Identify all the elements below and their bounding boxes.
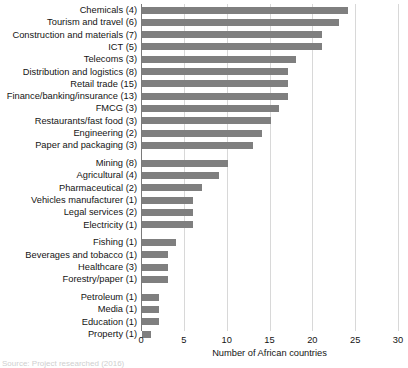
category-label: Legal services (2) [0, 206, 137, 218]
bar-row [141, 41, 398, 53]
category-label: Pharmaceutical (2) [0, 182, 137, 194]
bar [142, 209, 193, 216]
bar-row [141, 194, 398, 206]
plot-area [141, 4, 398, 331]
bar [142, 172, 219, 179]
bar [142, 7, 348, 14]
category-label: Engineering (2) [0, 127, 137, 139]
category-label: Telecoms (3) [0, 53, 137, 65]
x-tick-label-5: 5 [169, 334, 199, 346]
bar-row [141, 316, 398, 328]
bar [142, 239, 176, 246]
bar [142, 93, 288, 100]
bar [142, 117, 271, 124]
bar-row [141, 115, 398, 127]
category-label: Fishing (1) [0, 236, 137, 248]
bar [142, 80, 288, 87]
bar [142, 197, 193, 204]
category-label: Forestry/paper (1) [0, 273, 137, 285]
category-label: Retail trade (15) [0, 78, 137, 90]
gridline-30 [398, 4, 399, 331]
bar [142, 43, 322, 50]
bar [142, 184, 202, 191]
x-tick-label-0: 0 [126, 334, 156, 346]
bar [142, 306, 159, 313]
category-label: Agricultural (4) [0, 169, 137, 181]
bar-chart: Chemicals (4)Tourism and travel (6)Const… [0, 0, 408, 368]
bar-row [141, 66, 398, 78]
category-label: FMCG (3) [0, 102, 137, 114]
bar [142, 251, 168, 258]
x-axis-title: Number of African countries [141, 348, 398, 358]
bar [142, 68, 288, 75]
bar-row [141, 127, 398, 139]
bar-row [141, 53, 398, 65]
category-label-column: Chemicals (4)Tourism and travel (6)Const… [0, 4, 137, 331]
bar-row [141, 4, 398, 16]
bar [142, 105, 279, 112]
bar [142, 142, 253, 149]
bar-row [141, 157, 398, 169]
bar-row [141, 29, 398, 41]
bar [142, 294, 159, 301]
category-label: Healthcare (3) [0, 261, 137, 273]
x-axis-tick-labels: 051015202530 [0, 334, 408, 348]
bar-row [141, 169, 398, 181]
x-tick-label-15: 15 [255, 334, 285, 346]
x-tick-label-25: 25 [340, 334, 370, 346]
bar-row [141, 90, 398, 102]
bar [142, 221, 193, 228]
category-label: Media (1) [0, 303, 137, 315]
bar-row [141, 219, 398, 231]
bar [142, 160, 228, 167]
category-label: Petroleum (1) [0, 291, 137, 303]
source-note: Source: Project researched (2016) [2, 359, 124, 368]
category-label: Vehicles manufacturer (1) [0, 194, 137, 206]
category-label: Electricity (1) [0, 219, 137, 231]
bar-row [141, 78, 398, 90]
bar-row [141, 249, 398, 261]
category-label: Education (1) [0, 316, 137, 328]
bar-row [141, 102, 398, 114]
bar [142, 276, 168, 283]
category-label: Beverages and tobacco (1) [0, 249, 137, 261]
bar-row [141, 236, 398, 248]
bar [142, 19, 339, 26]
category-label: Chemicals (4) [0, 4, 137, 16]
category-label: Mining (8) [0, 157, 137, 169]
bar-row [141, 16, 398, 28]
bar-row [141, 273, 398, 285]
bar [142, 264, 168, 271]
category-label: Distribution and logistics (8) [0, 66, 137, 78]
category-label: Finance/banking/insurance (13) [0, 90, 137, 102]
category-label: Paper and packaging (3) [0, 139, 137, 151]
bar [142, 31, 322, 38]
bar-row [141, 206, 398, 218]
category-label: Construction and materials (7) [0, 29, 137, 41]
x-tick-label-10: 10 [212, 334, 242, 346]
bar [142, 130, 262, 137]
x-tick-label-30: 30 [383, 334, 408, 346]
bar-row [141, 261, 398, 273]
category-label: Restaurants/fast food (3) [0, 115, 137, 127]
bar [142, 318, 159, 325]
category-label: Tourism and travel (6) [0, 16, 137, 28]
bar [142, 56, 296, 63]
bar-row [141, 303, 398, 315]
bar-row [141, 291, 398, 303]
x-tick-label-20: 20 [297, 334, 327, 346]
category-label: ICT (5) [0, 41, 137, 53]
bar-row [141, 139, 398, 151]
bar-rows [141, 4, 398, 331]
bar-row [141, 182, 398, 194]
